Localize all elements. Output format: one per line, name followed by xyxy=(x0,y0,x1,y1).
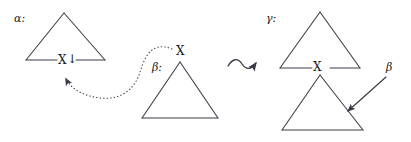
alpha-label: α: xyxy=(14,13,25,24)
beta-root-marker: X xyxy=(176,45,185,57)
alpha-leaf-marker: X xyxy=(58,54,67,66)
diagram-canvas xyxy=(0,0,411,142)
squiggly-rewrite-arrow xyxy=(228,60,256,69)
beta-callout-label: β xyxy=(386,62,392,73)
gamma-leaf-marker: X xyxy=(313,61,322,73)
gamma-label: γ: xyxy=(266,13,276,24)
gamma-subtree-triangle xyxy=(282,75,363,130)
alpha-leaf-down-arrow-icon: ↓ xyxy=(67,53,77,65)
beta-callout-arrow xyxy=(348,77,386,111)
tree-grafting-diagram: α: X ↓ β: X γ: X β xyxy=(0,0,411,142)
beta-label: β: xyxy=(152,62,162,73)
